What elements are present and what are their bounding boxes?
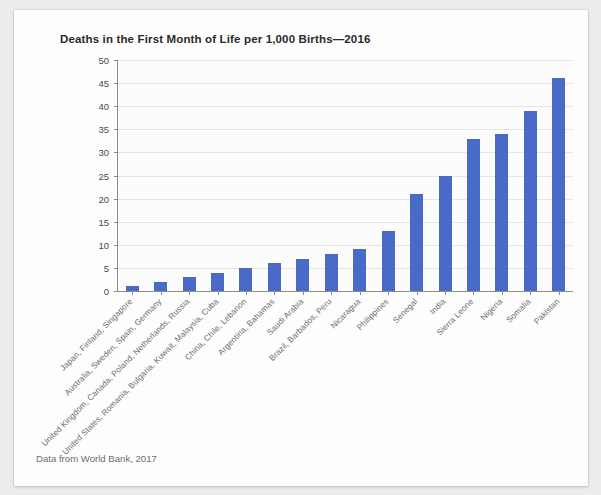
x-axis-tick-mark	[161, 291, 162, 295]
y-axis-tick-label: 10	[79, 239, 109, 250]
x-axis-tick-mark	[303, 291, 304, 295]
bar[interactable]	[183, 277, 196, 291]
bar[interactable]	[325, 254, 338, 291]
x-axis-tick-mark	[559, 291, 560, 295]
x-axis-tick-mark	[331, 291, 332, 295]
y-axis-tick-mark	[114, 106, 118, 107]
y-axis-tick-mark	[114, 245, 118, 246]
y-axis-tick-mark	[114, 60, 118, 61]
bar[interactable]	[552, 78, 565, 291]
plot-wrapper: 05101520253035404550Japan, Finland, Sing…	[14, 10, 588, 486]
y-axis-tick-label: 5	[79, 262, 109, 273]
gridline	[118, 60, 573, 61]
y-axis-tick-mark	[114, 222, 118, 223]
x-axis-tick-label: Somalia	[505, 297, 533, 325]
bar[interactable]	[268, 263, 281, 291]
bar[interactable]	[439, 176, 452, 292]
page-background: Deaths in the First Month of Life per 1,…	[0, 0, 601, 495]
x-axis-tick-mark	[502, 291, 503, 295]
y-axis-tick-label: 20	[79, 193, 109, 204]
x-axis-tick-mark	[360, 291, 361, 295]
y-axis-tick-mark	[114, 83, 118, 84]
gridline	[118, 129, 573, 130]
y-axis-tick-label: 40	[79, 101, 109, 112]
x-axis-tick-label: India	[428, 297, 447, 316]
y-axis-tick-label: 35	[79, 124, 109, 135]
x-axis-tick-mark	[218, 291, 219, 295]
y-axis-tick-mark	[114, 152, 118, 153]
x-axis-tick-mark	[417, 291, 418, 295]
x-axis-tick-mark	[530, 291, 531, 295]
y-axis-tick-label: 15	[79, 216, 109, 227]
x-axis-tick-label: Pakistan	[532, 297, 561, 326]
y-axis-tick-label: 45	[79, 78, 109, 89]
y-axis-tick-label: 30	[79, 147, 109, 158]
y-axis-tick-mark	[114, 129, 118, 130]
bar[interactable]	[410, 194, 423, 291]
chart-card: Deaths in the First Month of Life per 1,…	[14, 10, 588, 486]
gridline	[118, 83, 573, 84]
x-axis-tick-mark	[445, 291, 446, 295]
x-axis-tick-mark	[246, 291, 247, 295]
x-axis-tick-label: Senegal	[391, 297, 419, 325]
bar[interactable]	[353, 249, 366, 291]
x-axis-tick-label: Nigeria	[479, 297, 504, 322]
plot-area	[117, 60, 573, 292]
x-axis-tick-mark	[274, 291, 275, 295]
bar[interactable]	[239, 268, 252, 291]
bar[interactable]	[524, 111, 537, 291]
source-note: Data from World Bank, 2017	[36, 453, 157, 464]
y-axis-tick-mark	[114, 176, 118, 177]
gridline	[118, 106, 573, 107]
y-axis-tick-label: 25	[79, 170, 109, 181]
bar[interactable]	[296, 259, 309, 291]
bar[interactable]	[495, 134, 508, 291]
x-axis-tick-mark	[473, 291, 474, 295]
x-axis-tick-mark	[189, 291, 190, 295]
x-axis-tick-mark	[388, 291, 389, 295]
bar[interactable]	[467, 139, 480, 291]
y-axis-tick-label: 50	[79, 55, 109, 66]
bar[interactable]	[211, 273, 224, 291]
y-axis-tick-mark	[114, 199, 118, 200]
y-axis-tick-mark	[114, 291, 118, 292]
bar[interactable]	[382, 231, 395, 291]
bar[interactable]	[154, 282, 167, 291]
y-axis-tick-mark	[114, 268, 118, 269]
y-axis-tick-label: 0	[79, 286, 109, 297]
x-axis-tick-mark	[132, 291, 133, 295]
